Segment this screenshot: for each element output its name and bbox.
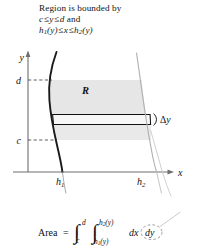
tick-label-d: d bbox=[16, 75, 22, 86]
tick-label-c: c bbox=[17, 135, 22, 146]
figure-caption: Region is bounded by c≤y≤d and h1(y)≤x≤h… bbox=[39, 3, 191, 38]
inner-integral-lower: h1(y) bbox=[94, 237, 109, 247]
inner-integral-upper: h2(y) bbox=[99, 218, 114, 228]
dy-leader-line bbox=[160, 212, 188, 227]
outer-integral-upper: d bbox=[82, 218, 86, 227]
strip-rect bbox=[53, 115, 151, 125]
delta-y-label: Δy bbox=[160, 114, 171, 125]
caption-line-1: Region is bounded by bbox=[39, 3, 191, 14]
delta-y-brace-icon bbox=[154, 114, 157, 125]
differential-dy: dy bbox=[145, 227, 155, 238]
x-axis-label: x bbox=[177, 167, 183, 178]
y-axis-arrow-icon bbox=[26, 51, 31, 58]
differential-dx: dx bbox=[129, 227, 139, 238]
curve-label-h2: h2 bbox=[137, 176, 146, 188]
region-label-R: R bbox=[81, 85, 89, 96]
figure-root: Region is bounded by c≤y≤d and h1(y)≤x≤h… bbox=[0, 0, 197, 250]
caption-y: y bbox=[49, 14, 53, 24]
x-axis-arrow-icon bbox=[168, 170, 175, 175]
caption-h2-arg: (y) bbox=[82, 25, 93, 35]
caption-d: d bbox=[60, 14, 65, 24]
area-formula: Area = ∫ d c ∫ h2(y) h1(y) dx dy bbox=[38, 212, 193, 246]
caption-and: and bbox=[67, 14, 81, 24]
formula-equals: = bbox=[63, 227, 69, 238]
caption-line-3: h1(y)≤x≤h2(y) bbox=[39, 25, 191, 38]
curve-h2-extension bbox=[157, 172, 162, 193]
caption-line-2: c≤y≤d and bbox=[39, 14, 191, 25]
y-axis-label: y bbox=[19, 52, 25, 63]
formula-label: Area bbox=[38, 227, 58, 238]
caption-h1-arg: (y) bbox=[47, 25, 58, 35]
region-diagram: y x d c R h1 h2 Δy bbox=[0, 38, 197, 198]
